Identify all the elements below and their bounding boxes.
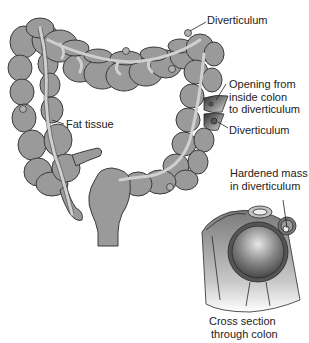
label-diverticulum-top: Diverticulum <box>207 14 268 27</box>
opening-cutaway <box>204 95 228 130</box>
label-opening-line2: inside colon <box>229 91 300 104</box>
cross-section <box>202 206 300 312</box>
label-cross-line2: through colon <box>209 328 278 341</box>
label-cross-section: Cross section through colon <box>209 315 278 340</box>
label-hardened-line1: Hardened mass <box>230 167 308 180</box>
label-cross-line1: Cross section <box>209 315 278 328</box>
label-opening-line3: to diverticulum <box>229 103 300 116</box>
label-fat-tissue: Fat tissue <box>66 118 114 131</box>
label-hardened-mass: Hardened mass in diverticulum <box>230 167 308 192</box>
label-opening: Opening from inside colon to diverticulu… <box>229 78 300 116</box>
label-opening-line1: Opening from <box>229 78 300 91</box>
colon-diagram: Diverticulum Opening from inside colon t… <box>0 0 309 343</box>
label-diverticulum-side: Diverticulum <box>229 124 290 137</box>
label-hardened-line2: in diverticulum <box>230 180 308 193</box>
